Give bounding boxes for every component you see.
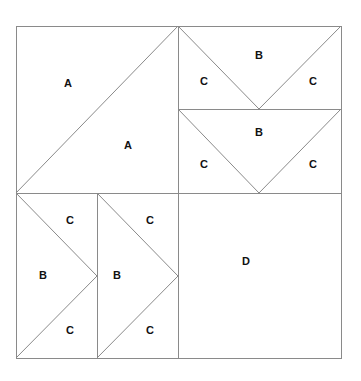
piece-label-b4: B — [113, 269, 121, 281]
square-a-diagonal — [16, 26, 178, 193]
piece-label-d1: D — [242, 255, 250, 267]
piece-label-c3: C — [200, 158, 208, 170]
piece-label-c1: C — [200, 75, 208, 87]
piece-label-b2: B — [255, 126, 263, 138]
piece-label-c8: C — [146, 324, 154, 336]
piece-label-c7: C — [146, 214, 154, 226]
piece-label-b1: B — [255, 49, 263, 61]
goose-4-outline — [97, 193, 178, 358]
goose-1-outline — [178, 26, 341, 109]
quilt-block-diagram: A A B C C B C C C B C C B C D — [0, 0, 361, 381]
piece-label-c5: C — [66, 214, 74, 226]
goose-2-outline — [178, 109, 341, 193]
piece-label-c2: C — [309, 75, 317, 87]
piece-label-a1: A — [64, 77, 72, 89]
goose-3-outline — [16, 193, 97, 358]
piece-label-c6: C — [66, 324, 74, 336]
piece-label-b3: B — [39, 269, 47, 281]
piece-label-c4: C — [309, 158, 317, 170]
piece-label-a2: A — [124, 139, 132, 151]
